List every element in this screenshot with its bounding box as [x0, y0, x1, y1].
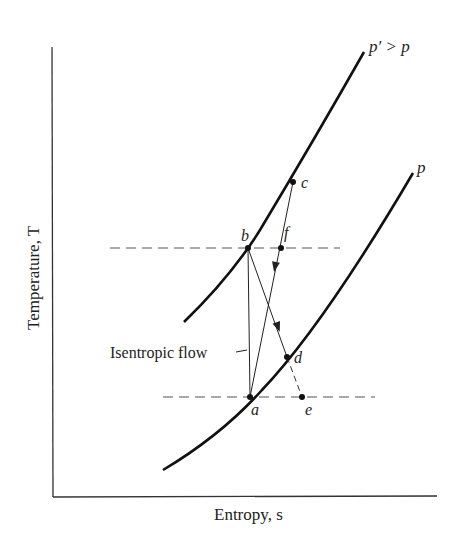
label-lower-isobar: p [416, 158, 426, 177]
x-axis [53, 496, 437, 497]
point-f [278, 245, 284, 251]
label-e: e [305, 401, 312, 418]
point-c [290, 179, 296, 185]
point-b [245, 245, 251, 251]
isentropic-leader [236, 350, 247, 352]
ts-diagram: p′ > p p c b f d a e Isentropic flow Ent… [0, 0, 462, 539]
point-d [284, 354, 290, 360]
label-upper-isobar: p′ > p [368, 37, 410, 56]
label-b: b [241, 227, 249, 244]
label-a: a [251, 401, 259, 418]
line-a-c [250, 182, 293, 397]
label-isentropic-flow: Isentropic flow [110, 344, 208, 362]
line-b-d [248, 248, 287, 357]
label-c: c [301, 174, 308, 191]
isentropic-line-ab [248, 248, 250, 397]
label-f: f [284, 224, 291, 242]
label-d: d [294, 349, 303, 366]
isobar-lower [163, 173, 413, 470]
x-axis-label: Entropy, s [214, 505, 283, 524]
point-a [247, 394, 253, 400]
point-e [299, 394, 305, 400]
isobar-upper [184, 52, 364, 322]
y-axis [52, 47, 53, 497]
y-axis-label: Temperature, T [24, 225, 43, 330]
